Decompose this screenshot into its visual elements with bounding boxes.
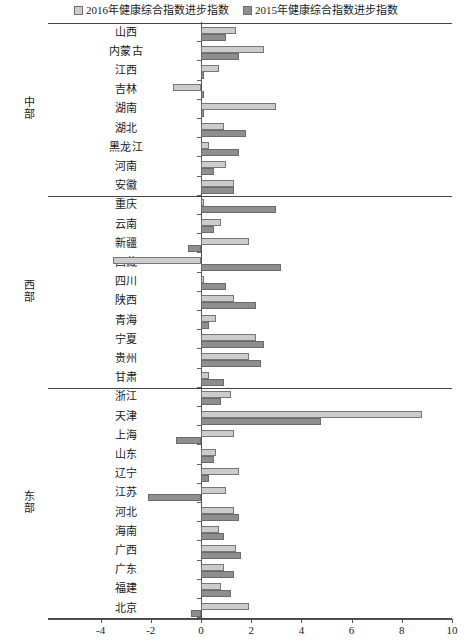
bar-2016: [201, 46, 264, 53]
category-label: 福建: [60, 582, 192, 594]
region-label-1: 西部: [12, 279, 46, 303]
bar-2016: [201, 487, 226, 494]
chart-row: 湖北: [0, 119, 472, 138]
chart-row: 浙江: [0, 388, 472, 407]
x-axis-tick-label: 6: [337, 624, 367, 637]
bar-2016: [201, 103, 276, 110]
category-label: 青海: [60, 314, 192, 326]
x-axis-tick: [402, 619, 403, 623]
x-axis-tick: [301, 619, 302, 623]
category-label: 辽宁: [60, 467, 192, 479]
bar-2016: [201, 161, 226, 168]
bar-2016: [201, 449, 216, 456]
bar-2016: [201, 65, 219, 72]
category-label: 上海: [60, 429, 192, 441]
category-label: 新疆: [60, 237, 192, 249]
bar-2016: [201, 391, 231, 398]
bar-2015: [201, 533, 224, 540]
category-label: 内蒙古: [60, 45, 192, 57]
category-label: 北京: [60, 602, 192, 614]
chart-row: 江苏: [0, 484, 472, 503]
chart-row: 辽宁: [0, 465, 472, 484]
bar-2016: [201, 564, 224, 571]
bar-2015: [201, 187, 234, 194]
x-axis-tick-label: 0: [186, 624, 216, 637]
bar-2015: [201, 91, 204, 98]
legend-entry-v2016: 2016年健康综合指数进步指数: [74, 4, 229, 16]
bar-2016: [201, 315, 216, 322]
x-axis-tick-label: 4: [286, 624, 316, 637]
chart-row: 安徽: [0, 177, 472, 196]
region-label-2: 东部: [12, 490, 46, 514]
bar-2016: [201, 219, 221, 226]
bar-2016: [113, 257, 201, 264]
bar-2016: [201, 430, 234, 437]
bar-2015: [188, 245, 201, 252]
category-label: 广东: [60, 563, 192, 575]
bar-2015: [201, 456, 214, 463]
legend-entry-v2015: 2015年健康综合指数进步指数: [243, 4, 398, 16]
region-label-char: 东: [12, 490, 46, 502]
bar-2015: [201, 302, 256, 309]
bar-2016: [201, 526, 219, 533]
chart-row: 新疆: [0, 234, 472, 253]
bar-2016: [201, 603, 249, 610]
category-label: 江西: [60, 64, 192, 76]
legend-swatch-icon: [243, 6, 252, 15]
bar-2016: [201, 238, 249, 245]
region-label-char: 部: [12, 291, 46, 303]
x-axis-tick: [101, 619, 102, 623]
bar-2015: [148, 494, 201, 501]
bar-2015: [201, 552, 241, 559]
bar-2016: [201, 295, 234, 302]
category-label: 甘肃: [60, 371, 192, 383]
bar-2016: [201, 142, 209, 149]
x-axis-tick-label: -4: [86, 624, 116, 637]
bar-2015: [201, 130, 246, 137]
bar-2015: [201, 322, 209, 329]
bar-2016: [201, 372, 209, 379]
bar-2016: [201, 583, 221, 590]
bar-2015: [201, 398, 221, 405]
category-label: 安徽: [60, 179, 192, 191]
category-label: 陕西: [60, 294, 192, 306]
legend-label: 2016年健康综合指数进步指数: [86, 4, 229, 16]
chart-row: 黑龙江: [0, 138, 472, 157]
category-label: 广西: [60, 544, 192, 556]
bar-2015: [201, 341, 264, 348]
chart-row: 河南: [0, 157, 472, 176]
bar-2015: [201, 168, 214, 175]
legend-label: 2015年健康综合指数进步指数: [255, 4, 398, 16]
bar-2015: [201, 206, 276, 213]
chart-row: 陕西: [0, 292, 472, 311]
chart-row: 广西: [0, 541, 472, 560]
region-label-char: 西: [12, 279, 46, 291]
bar-2015: [201, 72, 204, 79]
chart-row: 西藏: [0, 253, 472, 272]
category-label: 吉林: [60, 83, 192, 95]
chart-row: 宁夏: [0, 330, 472, 349]
category-label: 贵州: [60, 352, 192, 364]
group-separator: [48, 618, 452, 619]
x-axis-tick: [452, 619, 453, 623]
category-label: 四川: [60, 275, 192, 287]
chart-row: 云南: [0, 215, 472, 234]
bar-2015: [201, 590, 231, 597]
bar-2016: [201, 27, 236, 34]
x-axis-tick-label: 8: [387, 624, 417, 637]
chart-row: 广东: [0, 561, 472, 580]
bar-2015: [201, 226, 214, 233]
chart-row: 北京: [0, 599, 472, 618]
category-label: 湖南: [60, 102, 192, 114]
chart-row: 甘肃: [0, 369, 472, 388]
chart-row: 内蒙古: [0, 42, 472, 61]
bar-2016: [201, 353, 249, 360]
chart-row: 江西: [0, 61, 472, 80]
bar-2015: [201, 110, 204, 117]
chart-row: 福建: [0, 580, 472, 599]
bar-2015: [201, 283, 226, 290]
chart-row: 湖南: [0, 100, 472, 119]
bar-2015: [191, 610, 201, 617]
bar-2016: [173, 84, 201, 91]
chart-row: 四川: [0, 273, 472, 292]
